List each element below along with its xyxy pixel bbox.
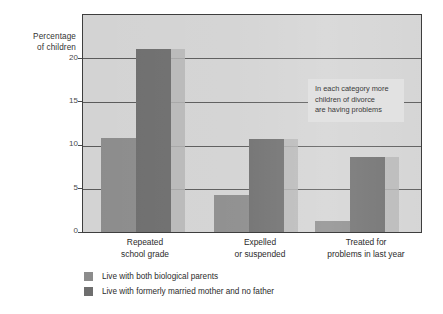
bar-group2-series1 xyxy=(214,195,249,232)
x-axis-label-2-line2: problems in last year xyxy=(306,249,426,261)
x-axis-label-2-line1: Treated for xyxy=(306,237,426,249)
bar-group1-series2 xyxy=(136,49,171,232)
legend-swatch-icon-dark xyxy=(84,287,93,296)
x-axis-label-treated-for-problems: Treated for problems in last year xyxy=(306,237,426,260)
x-axis-label-expelled-or-suspended: Expelled or suspended xyxy=(205,237,315,260)
bar-shadow-g1-s2 xyxy=(171,49,185,232)
legend-label-0: Live with both biological parents xyxy=(102,272,218,281)
bar-shadow-g2-s2 xyxy=(284,139,298,232)
annotation-line-3: are having problems xyxy=(315,105,398,116)
y-tick-label-20: 20 xyxy=(56,54,78,62)
y-tick-label-15: 15 xyxy=(56,97,78,105)
plot-area xyxy=(82,14,422,233)
annotation-callout: In each category more children of divorc… xyxy=(308,79,404,122)
y-tick-label-10: 10 xyxy=(56,140,78,148)
x-axis-label-repeated-school-grade: Repeated school grade xyxy=(90,237,200,260)
bar-shadow-g3-s2 xyxy=(385,157,399,232)
x-axis-label-0-line2: school grade xyxy=(90,249,200,261)
legend-swatch-icon-light xyxy=(84,272,93,281)
y-axis-title-line1: Percentage xyxy=(14,31,76,42)
bar-group2-series2 xyxy=(249,139,284,232)
bar-chart-figure: Percentage of children 20 15 10 5 0 xyxy=(0,0,443,314)
gridline-20 xyxy=(83,58,421,59)
y-axis-title: Percentage of children xyxy=(14,31,76,53)
legend-item-both-biological-parents: Live with both biological parents xyxy=(84,269,274,284)
legend-item-formerly-married-mother: Live with formerly married mother and no… xyxy=(84,284,274,299)
bar-group3-series1 xyxy=(315,221,350,232)
bar-group3-series2 xyxy=(350,157,385,232)
x-axis-label-1-line1: Expelled xyxy=(205,237,315,249)
x-axis-label-0-line1: Repeated xyxy=(90,237,200,249)
x-axis-label-1-line2: or suspended xyxy=(205,249,315,261)
annotation-line-2: children of divorce xyxy=(315,95,398,106)
y-tick-label-5: 5 xyxy=(56,184,78,192)
y-axis-title-line2: of children xyxy=(14,42,76,53)
y-tick-label-0: 0 xyxy=(56,227,78,235)
chart-legend: Live with both biological parents Live w… xyxy=(84,269,274,299)
legend-label-1: Live with formerly married mother and no… xyxy=(102,287,274,296)
annotation-line-1: In each category more xyxy=(315,84,398,95)
bar-group1-series1 xyxy=(101,138,136,232)
